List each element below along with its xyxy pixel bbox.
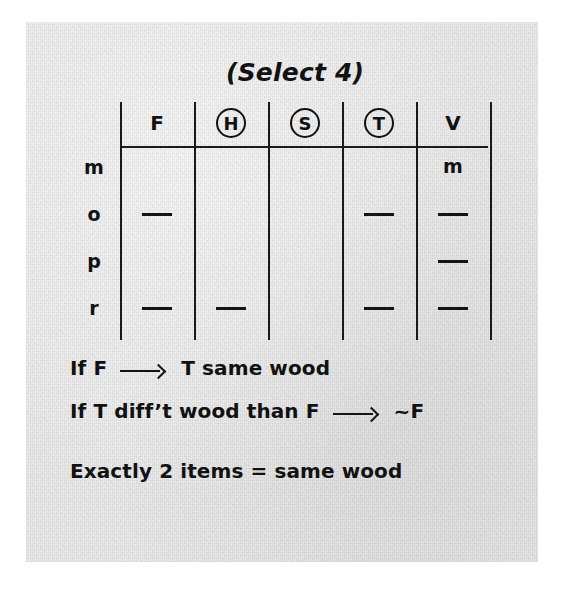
- grid-column-header-f: F: [120, 108, 194, 138]
- dash-mark: [438, 260, 468, 263]
- rule-antecedent: If F: [70, 356, 114, 380]
- grid-column-header-h: H: [194, 108, 268, 138]
- grid-vertical-line: [490, 102, 492, 340]
- grid-cell-r-v[interactable]: [416, 295, 490, 319]
- grid-row-label-r: r: [68, 297, 120, 319]
- grid-cell-p-v[interactable]: [416, 248, 490, 272]
- grid-row-label-p: p: [68, 250, 120, 272]
- grid-column-header-v: V: [416, 108, 490, 138]
- implication-arrow-icon: [333, 406, 381, 420]
- rule-line-1: If F T same wood: [70, 356, 330, 380]
- dash-mark: [438, 307, 468, 310]
- letter: V: [438, 108, 468, 138]
- grid-cell-o-t[interactable]: [342, 201, 416, 225]
- rule-consequent: ~F: [387, 399, 425, 423]
- grid-row-label-m: m: [68, 156, 120, 178]
- conclusion-line: Exactly 2 items = same wood: [70, 459, 402, 483]
- dash-mark: [216, 307, 246, 310]
- dash-mark: [142, 213, 172, 216]
- grid-column-header-t: T: [342, 108, 416, 138]
- letter: F: [142, 108, 172, 138]
- dash-mark: [438, 213, 468, 216]
- logic-grid: mopr FHSTVm: [68, 102, 488, 342]
- dash-mark: [142, 307, 172, 310]
- rule-line-2: If T diff’t wood than F ~F: [70, 399, 424, 423]
- grid-column-header-s: S: [268, 108, 342, 138]
- dash-mark: [364, 213, 394, 216]
- grid-header-rule: [120, 146, 488, 148]
- circled-letter: H: [216, 108, 246, 138]
- grid-table: FHSTVm: [120, 102, 488, 342]
- grid-cell-m-v[interactable]: m: [416, 154, 490, 178]
- grid-cell-r-h[interactable]: [194, 295, 268, 319]
- grid-row-label-o: o: [68, 203, 120, 225]
- implication-arrow-icon: [120, 363, 168, 377]
- circled-letter: S: [290, 108, 320, 138]
- grid-cell-r-f[interactable]: [120, 295, 194, 319]
- grid-cell-o-v[interactable]: [416, 201, 490, 225]
- page-title: (Select 4): [226, 58, 364, 87]
- dash-mark: [364, 307, 394, 310]
- row-label-column: mopr: [68, 102, 120, 342]
- rule-antecedent: If T diff’t wood than F: [70, 399, 327, 423]
- grid-cell-r-t[interactable]: [342, 295, 416, 319]
- paper-sheet: (Select 4) mopr FHSTVm If F T same wood …: [26, 22, 538, 562]
- rule-consequent: T same wood: [174, 356, 330, 380]
- circled-letter: T: [364, 108, 394, 138]
- grid-cell-o-f[interactable]: [120, 201, 194, 225]
